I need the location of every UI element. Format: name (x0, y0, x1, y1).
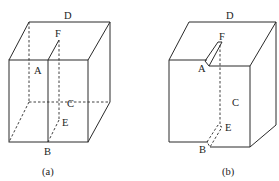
hidden-bottom-left-a (9, 102, 29, 142)
front-face-right-b (209, 66, 250, 147)
partition-top-line-a (48, 40, 59, 60)
slot-top-af-b (205, 42, 222, 66)
bottom-right-edge-a (88, 102, 110, 142)
label-e-b: E (225, 122, 231, 133)
bottom-right-edge-b (250, 125, 276, 147)
top-right-edge-a (88, 22, 110, 60)
caption-a: (a) (42, 166, 54, 178)
label-c-b: C (232, 97, 239, 108)
figure-b: D F A C E B (b) (169, 10, 276, 178)
label-f-b: F (219, 31, 225, 42)
diagram-canvas: D F A C E B (a) D F A C E B (b) (0, 0, 279, 181)
partition-hidden-bottom-a (48, 120, 59, 142)
label-b-b: B (199, 144, 206, 155)
label-b-a: B (44, 146, 51, 157)
top-right-edge-b (250, 22, 276, 66)
figure-a: D F A C E B (a) (9, 10, 110, 178)
label-f-a: F (55, 28, 61, 39)
slot-bottom-be-b (207, 125, 222, 147)
top-left-edge-b (169, 22, 189, 60)
label-c-a: C (67, 98, 74, 109)
label-e-a: E (62, 117, 68, 128)
label-a-a: A (34, 65, 42, 76)
label-a-b: A (198, 63, 206, 74)
label-d-a: D (64, 10, 72, 21)
label-d-b: D (226, 10, 234, 21)
top-left-edge-a (9, 22, 29, 60)
caption-b: (b) (222, 166, 235, 178)
